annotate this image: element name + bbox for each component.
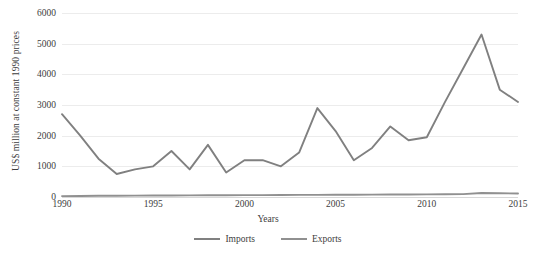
- x-tick-label: 2005: [326, 199, 345, 209]
- x-tick-label: 1990: [53, 199, 72, 209]
- x-axis-baseline: [62, 197, 518, 198]
- x-tick-label: 1995: [144, 199, 163, 209]
- chart-legend: ImportsExports: [0, 234, 536, 244]
- legend-item-imports[interactable]: Imports: [194, 234, 255, 244]
- series-line-exports: [62, 193, 518, 196]
- y-tick-label: 0: [8, 192, 56, 202]
- y-tick-label: 3000: [8, 100, 56, 110]
- y-axis-tick-labels: 0100020003000400050006000: [8, 13, 56, 197]
- legend-label: Imports: [225, 234, 255, 244]
- y-tick-label: 4000: [8, 69, 56, 79]
- y-tick-label: 1000: [8, 161, 56, 171]
- x-tick-label: 2010: [417, 199, 436, 209]
- series-lines: [62, 13, 518, 197]
- line-chart: US$ million at constant 1990 prices 0100…: [0, 0, 536, 257]
- legend-label: Exports: [312, 234, 342, 244]
- y-tick-label: 6000: [8, 8, 56, 18]
- x-tick-label: 2000: [235, 199, 254, 209]
- x-tick-label: 2015: [509, 199, 528, 209]
- y-tick-label: 2000: [8, 131, 56, 141]
- legend-swatch-icon: [194, 238, 220, 241]
- legend-item-exports[interactable]: Exports: [281, 234, 342, 244]
- plot-area: [62, 13, 518, 197]
- y-tick-label: 5000: [8, 39, 56, 49]
- series-line-imports: [62, 34, 518, 174]
- legend-swatch-icon: [281, 238, 307, 241]
- x-axis-tick-labels: 199019952000200520102015: [62, 199, 518, 215]
- x-axis-title: Years: [0, 214, 536, 224]
